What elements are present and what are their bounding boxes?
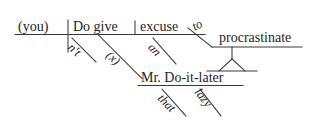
word-subject: (you) <box>18 20 48 34</box>
word-indirect-object: Mr. Do-it-later <box>141 71 223 85</box>
pedestal-leg-right <box>232 59 245 71</box>
sentence-diagram-page: (you) Do give excuse procrastinate Mr. D… <box>0 0 316 124</box>
word-verb: Do give <box>73 20 118 34</box>
word-direct-object: excuse <box>140 20 178 34</box>
word-infinitive-verb: procrastinate <box>219 31 291 45</box>
